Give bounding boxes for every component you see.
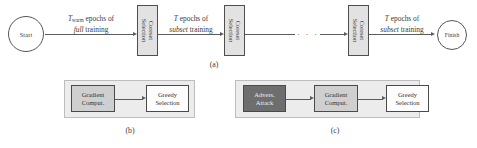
coreset-selection-box-3[interactable]: Coreset Selection: [348, 5, 369, 56]
warmup-epochs-text: epochs of: [84, 14, 114, 23]
panel-b-stage-1-line1: Greedy: [158, 91, 177, 99]
panel-c-stage-1-line2: Comput.: [325, 99, 348, 107]
panel-c-arrow-2-line: [358, 99, 383, 100]
edge-warmup-label-line1: Twarm epochs of: [47, 13, 135, 24]
panel-b-stage-0-line1: Gradient: [82, 91, 105, 99]
panel-c-stage-0-line2: Attack: [256, 99, 273, 107]
coreset-label-line1: Coreset: [235, 21, 242, 40]
edge-subset-last-label-line1: T epochs of: [371, 13, 433, 24]
panel-c-arrow-1-line: [286, 99, 311, 100]
edge-subset1-label-line2: subset training: [160, 24, 222, 35]
caption-panel-b: (b): [115, 126, 145, 135]
subset-last-epochs-text: epochs of: [389, 14, 419, 23]
coreset-selection-box-2[interactable]: Coreset Selection: [224, 5, 245, 56]
coreset-label-line2: Selection: [352, 19, 359, 42]
panel-c-stage-advers-attack[interactable]: Advers. Attack: [243, 85, 286, 112]
subset-last-training-word: training: [399, 25, 424, 34]
finish-label: Finish: [445, 32, 460, 38]
start-circle: Start: [8, 16, 44, 52]
coreset-label-line2: Selection: [141, 19, 148, 42]
panel-b-stage-gradient-comput[interactable]: Gradient Comput.: [71, 85, 115, 112]
warmup-training-word: training: [84, 25, 109, 34]
edge-continuation-right: [320, 34, 345, 35]
coreset-label-line2: Selection: [228, 19, 235, 42]
edge-subset-last-label-line2: subset training: [371, 24, 433, 35]
finish-circle: Finish: [437, 20, 467, 50]
coreset-selection-box-3-label: Coreset Selection: [351, 19, 366, 42]
warmup-full-word: full: [74, 25, 84, 34]
edge-continuation-left: [245, 34, 295, 35]
panel-c-stage-gradient-comput[interactable]: Gradient Comput.: [314, 85, 358, 112]
panel-c-stage-greedy-selection[interactable]: Greedy Selection: [386, 85, 429, 112]
ellipsis-continuation: · · ·: [297, 30, 319, 39]
panel-c-stage-1-line1: Gradient: [325, 91, 348, 99]
subset1-subset-word: subset: [169, 25, 187, 34]
edge-subset1-label-line1: T epochs of: [160, 13, 222, 24]
caption-panel-a: (a): [199, 60, 229, 69]
coreset-selection-box-1-label: Coreset Selection: [140, 19, 155, 42]
panel-b-arrow-line: [115, 99, 143, 100]
edge-subset1-label: T epochs of subset training: [160, 13, 222, 36]
subset-last-subset-word: subset: [380, 25, 398, 34]
panel-b-stage-0-line2: Comput.: [82, 99, 105, 107]
start-label: Start: [20, 31, 33, 38]
coreset-selection-box-1[interactable]: Coreset Selection: [137, 5, 158, 56]
caption-panel-c: (c): [320, 126, 350, 135]
coreset-label-line1: Coreset: [148, 21, 155, 40]
warmup-T-subscript: warm: [72, 17, 84, 23]
edge-subset-last-label: T epochs of subset training: [371, 13, 433, 36]
subset1-epochs-text: epochs of: [178, 14, 208, 23]
panel-c-stage-2-line2: Selection: [395, 99, 419, 107]
edge-warmup-label-line2: full training: [47, 24, 135, 35]
coreset-label-line1: Coreset: [359, 21, 366, 40]
panel-c-stage-0-line1: Advers.: [254, 91, 274, 99]
subset1-training-word: training: [188, 25, 213, 34]
panel-b-stage-1-line2: Selection: [155, 99, 179, 107]
edge-warmup-label: Twarm epochs of full training: [47, 13, 135, 36]
figure-root: Start Twarm epochs of full training Core…: [0, 0, 477, 148]
panel-c-stage-2-line1: Greedy: [398, 91, 417, 99]
panel-b-stage-greedy-selection[interactable]: Greedy Selection: [146, 85, 189, 112]
coreset-selection-box-2-label: Coreset Selection: [227, 19, 242, 42]
